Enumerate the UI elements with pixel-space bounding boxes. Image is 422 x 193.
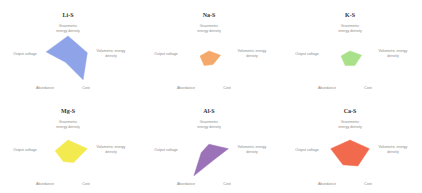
axis-label: Output voltage [13,52,36,56]
radar-polygon [331,140,370,166]
radar-chart: K-SGravimetricenergy densityVolumetric e… [282,0,422,96]
axis-label: Volumetric energydensity [379,49,408,58]
chart-title: Li-S [62,12,74,18]
axis-label: Gravimetricenergy density [338,120,362,129]
axis-label: Volumetric energydensity [238,145,267,154]
radar-chart: Al-SGravimetricenergy densityVolumetric … [141,96,282,193]
radar-chart-grid: Li-SGravimetricenergy densityVolumetric … [0,0,422,193]
radar-panel-al-s: Al-SGravimetricenergy densityVolumetric … [141,96,282,193]
axis-label: Abundance [318,182,336,186]
chart-title: Na-S [203,12,216,18]
axis-label: Cost [223,182,230,186]
axis-label: Volumetric energydensity [97,145,126,154]
axis-label: Cost [82,182,89,186]
axis-label: Cost [364,182,371,186]
axis-label: Abundance [318,86,336,90]
axis-label: Output voltage [13,148,36,152]
chart-title: Mg-S [61,108,76,114]
axis-label: Output voltage [295,52,318,56]
radar-panel-mg-s: Mg-SGravimetricenergy densityVolumetric … [0,96,141,193]
axis-label: Cost [364,86,371,90]
axis-label: Gravimetricenergy density [338,24,362,33]
axis-label: Volumetric energydensity [379,145,408,154]
axis-label: Volumetric energydensity [238,49,267,58]
axis-label: Gravimetricenergy density [56,120,80,129]
axis-label: Gravimetricenergy density [197,120,221,129]
axis-label: Abundance [177,86,195,90]
radar-polygon [200,51,221,66]
chart-title: K-S [345,12,356,18]
axis-label: Gravimetricenergy density [197,24,221,33]
radar-panel-li-s: Li-SGravimetricenergy densityVolumetric … [0,0,141,96]
radar-polygon [341,51,362,66]
axis-label: Gravimetricenergy density [56,24,80,33]
chart-title: Ca-S [344,108,357,114]
radar-polygon [55,140,87,163]
axis-label: Volumetric energydensity [97,49,126,58]
radar-polygon [46,36,87,80]
radar-chart: Ca-SGravimetricenergy densityVolumetric … [282,96,422,193]
radar-chart: Mg-SGravimetricenergy densityVolumetric … [0,96,141,193]
axis-label: Output voltage [154,148,177,152]
radar-panel-k-s: K-SGravimetricenergy densityVolumetric e… [282,0,422,96]
axis-label: Output voltage [295,148,318,152]
chart-title: Al-S [203,108,215,114]
axis-label: Abundance [36,182,54,186]
radar-panel-ca-s: Ca-SGravimetricenergy densityVolumetric … [282,96,422,193]
radar-panel-na-s: Na-SGravimetricenergy densityVolumetric … [141,0,282,96]
axis-label: Cost [223,86,230,90]
radar-chart: Li-SGravimetricenergy densityVolumetric … [0,0,141,96]
axis-label: Output voltage [154,52,177,56]
axis-label: Cost [82,86,89,90]
axis-label: Abundance [177,182,195,186]
radar-polygon [194,144,228,176]
axis-label: Abundance [36,86,54,90]
radar-chart: Na-SGravimetricenergy densityVolumetric … [141,0,282,96]
